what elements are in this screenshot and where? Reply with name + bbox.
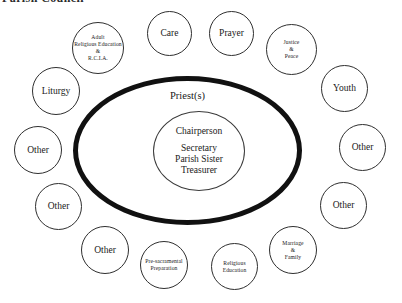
ministry-label-youth: Youth: [332, 83, 357, 94]
ministry-circle-marriage-and-family: Marriage & Family: [269, 226, 317, 274]
ministry-label-justice-and-peace: Justice & Peace: [283, 39, 301, 60]
ministry-circle-other-right-upper: Other: [339, 124, 386, 171]
ministry-circle-liturgy: Liturgy: [32, 67, 80, 115]
priests-label: Priest(s): [73, 90, 302, 102]
ministry-label-other-left-upper: Other: [26, 145, 50, 156]
officers-circle: Chairperson Secretary Parish Sister Trea…: [153, 111, 245, 191]
ministry-label-other-bottom-left: Other: [93, 245, 117, 256]
ministry-circle-religious-education: Religious Education: [211, 243, 258, 290]
ministry-label-other-right-lower: Other: [332, 200, 356, 211]
officer-secretary: Secretary: [181, 143, 217, 154]
officer-treasurer: Treasurer: [181, 165, 217, 176]
ministry-label-religious-education: Religious Education: [222, 260, 248, 274]
ministry-label-prayer: Prayer: [218, 28, 245, 39]
ministry-label-other-right-upper: Other: [351, 142, 375, 153]
officer-parish-sister: Parish Sister: [175, 154, 223, 165]
ministry-circle-care: Care: [147, 11, 192, 56]
ministry-circle-other-left-upper: Other: [14, 126, 62, 174]
ministry-circle-prayer: Prayer: [209, 11, 254, 56]
ministry-circle-other-bottom-left: Other: [81, 226, 129, 274]
ministry-circle-other-right-lower: Other: [320, 182, 367, 229]
parish-council-diagram: Parish Council Priest(s) Chairperson Sec…: [0, 0, 402, 303]
ministry-label-marriage-and-family: Marriage & Family: [281, 240, 304, 261]
ministry-label-other-left-lower: Other: [47, 201, 71, 212]
ministry-circle-pre-sacramental-preparation: Pre-sacramental Preparation: [140, 241, 188, 289]
ministry-circle-adult-religious-education: Adult Religious Education & R.C.I.A.: [72, 22, 124, 74]
ministry-label-care: Care: [160, 28, 180, 39]
page-heading: Parish Council: [2, 0, 122, 5]
chairperson-label: Chairperson: [176, 126, 222, 137]
ministry-circle-other-left-lower: Other: [35, 183, 82, 230]
ministry-circle-youth: Youth: [321, 65, 368, 112]
ministry-label-adult-religious-education: Adult Religious Education & R.C.I.A.: [73, 34, 122, 62]
ministry-label-liturgy: Liturgy: [41, 86, 71, 97]
ministry-label-pre-sacramental-preparation: Pre-sacramental Preparation: [144, 258, 184, 272]
ministry-circle-justice-and-peace: Justice & Peace: [266, 24, 317, 75]
